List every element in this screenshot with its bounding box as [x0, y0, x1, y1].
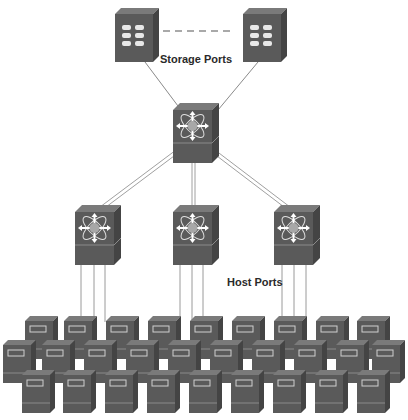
storage-array-2 — [243, 8, 287, 62]
host-ports-label: Host Ports — [227, 276, 283, 288]
storage-ports-label: Storage Ports — [160, 53, 232, 65]
host-row-back — [25, 316, 390, 359]
storage-array-1 — [115, 8, 159, 62]
edge-switch-1 — [75, 205, 121, 265]
storage-links — [145, 62, 258, 110]
edge-switch-2 — [173, 205, 219, 265]
core-switch — [173, 103, 219, 163]
host-row-front — [22, 370, 390, 413]
edge-switch-3 — [274, 205, 320, 265]
